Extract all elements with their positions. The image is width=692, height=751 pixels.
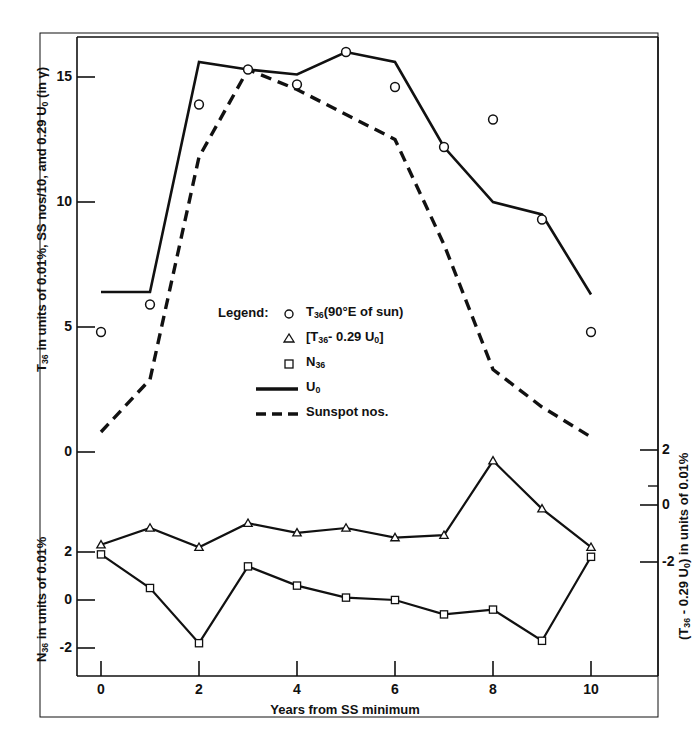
y-tick-label-top: 10 xyxy=(48,193,72,209)
data-point-n36 xyxy=(391,596,398,603)
data-point-t36-minus xyxy=(146,524,154,531)
y-tick-label-right: -2 xyxy=(662,553,686,569)
data-point-t36 xyxy=(538,215,547,224)
legend-dashed-line-swatch xyxy=(254,405,288,421)
data-point-n36 xyxy=(97,551,104,558)
data-point-t36 xyxy=(489,115,498,124)
x-tick-label: 0 xyxy=(92,681,110,697)
data-point-n36 xyxy=(538,637,545,644)
data-point-n36 xyxy=(195,640,202,647)
legend-label: Sunspot nos. xyxy=(306,404,388,419)
y-tick-label-right: 2 xyxy=(662,441,686,457)
y-tick-label-right: 0 xyxy=(662,496,686,512)
y-axis-right-label: (T36 - 0.29 U0) in units of 0.01% xyxy=(676,453,692,640)
legend-title: Legend: xyxy=(218,305,269,320)
x-tick-label: 2 xyxy=(190,681,208,697)
figure-border xyxy=(40,33,658,717)
x-tick-label: 6 xyxy=(386,681,404,697)
data-point-t36-minus xyxy=(489,457,497,464)
data-point-t36 xyxy=(342,48,351,57)
legend-label: [T36- 0.29 U0] xyxy=(306,329,384,345)
y-tick-label-top: 5 xyxy=(48,318,72,334)
data-point-t36 xyxy=(440,143,449,152)
data-point-t36 xyxy=(97,328,106,337)
data-point-t36 xyxy=(391,83,400,92)
series-line-u0 xyxy=(101,52,591,295)
data-point-t36 xyxy=(146,300,155,309)
series-line-sunspot xyxy=(101,70,591,438)
data-point-t36 xyxy=(293,80,302,89)
x-tick-label: 4 xyxy=(288,681,306,697)
data-point-n36 xyxy=(293,582,300,589)
data-point-n36 xyxy=(146,584,153,591)
x-tick-label: 8 xyxy=(484,681,502,697)
legend-solid-line-swatch xyxy=(254,380,288,396)
legend-label: U0 xyxy=(306,379,320,395)
y-tick-label-top: 0 xyxy=(48,443,72,459)
data-point-n36 xyxy=(587,553,594,560)
data-point-n36 xyxy=(342,594,349,601)
data-point-n36 xyxy=(244,563,251,570)
y-tick-label-bottom: 0 xyxy=(40,591,72,607)
axes-group xyxy=(40,33,658,717)
y-tick-label-bottom: -2 xyxy=(40,639,72,655)
x-tick-label: 10 xyxy=(582,681,600,697)
data-point-n36 xyxy=(440,611,447,618)
x-axis-title: Years from SS minimum xyxy=(0,702,690,717)
data-point-n36 xyxy=(489,606,496,613)
data-point-t36 xyxy=(244,65,253,74)
plot-group xyxy=(97,48,596,647)
y-tick-label-bottom: 2 xyxy=(40,543,72,559)
legend-label: N36 xyxy=(306,354,325,370)
data-point-t36 xyxy=(587,328,596,337)
data-point-t36 xyxy=(195,100,204,109)
legend-label: T36(90°E of sun) xyxy=(306,304,403,320)
series-line-t36-minus xyxy=(101,461,591,547)
y-tick-label-top: 15 xyxy=(48,68,72,84)
